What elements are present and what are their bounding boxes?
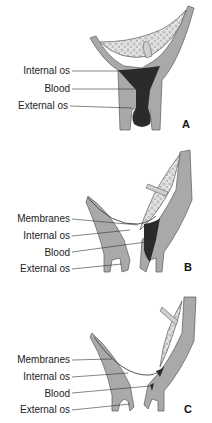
panel-letter-b: B [184, 261, 192, 273]
panel-a: Internal os Blood External os A [0, 0, 212, 140]
label-membranes-c: Membranes [17, 354, 70, 365]
panel-c: Membranes Internal os Blood External os … [0, 285, 212, 423]
label-blood-b: Blood [44, 247, 70, 258]
label-internal-os-a: Internal os [23, 65, 70, 76]
label-external-os-c: External os [20, 404, 70, 415]
label-external-os-b: External os [20, 263, 70, 274]
label-internal-os-c: Internal os [23, 371, 70, 382]
label-membranes-b: Membranes [17, 213, 70, 224]
label-internal-os-b: Internal os [23, 230, 70, 241]
label-external-os-a: External os [18, 100, 68, 111]
label-blood-a: Blood [44, 83, 70, 94]
panel-letter-a: A [182, 118, 190, 130]
label-blood-c: Blood [44, 388, 70, 399]
panel-letter-c: C [184, 403, 192, 415]
panel-b: Membranes Internal os Blood External os … [0, 140, 212, 285]
